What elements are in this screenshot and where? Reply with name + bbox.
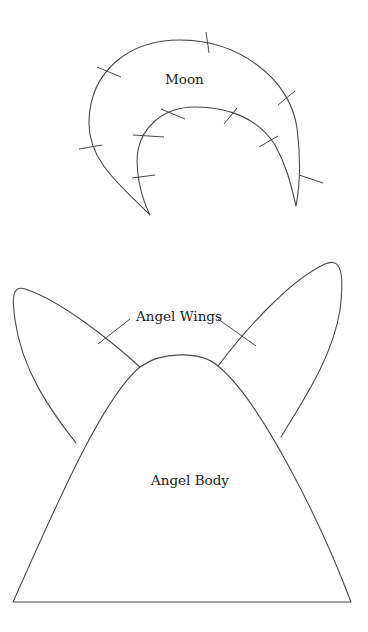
moon-notch — [79, 145, 102, 149]
moon-outline — [89, 40, 300, 215]
right-wing-outline — [218, 262, 342, 437]
angel-body-label: Angel Body — [151, 474, 229, 488]
moon-label: Moon — [165, 73, 204, 87]
pattern-diagram: Moon Angel Wings Angel Body — [0, 0, 368, 632]
angel-wings-piece — [13, 262, 342, 443]
moon-piece — [79, 32, 323, 215]
moon-notch — [278, 91, 295, 105]
angel-wings-label: Angel Wings — [136, 310, 222, 324]
moon-notch — [133, 135, 164, 137]
moon-notch — [299, 175, 323, 183]
left-wing-outline — [13, 288, 140, 443]
moon-notch — [132, 175, 155, 178]
wings-leader-left — [98, 319, 130, 344]
